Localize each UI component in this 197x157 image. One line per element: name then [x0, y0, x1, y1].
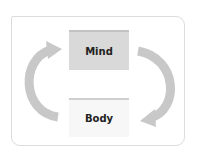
body-node: Body — [69, 98, 129, 137]
mind-label: Mind — [85, 46, 113, 57]
mind-node: Mind — [69, 30, 129, 70]
right-down-arrow-icon — [138, 51, 171, 127]
left-up-arrow-icon — [29, 41, 62, 117]
body-label: Body — [85, 113, 113, 124]
